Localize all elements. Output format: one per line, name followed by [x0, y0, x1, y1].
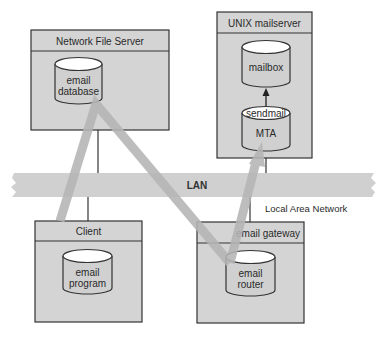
mail-architecture-diagram: Network File Server email database UNIX …	[0, 0, 388, 337]
unix-title: UNIX mailserver	[228, 18, 301, 29]
client-title: Client	[76, 226, 102, 237]
lan-label: LAN	[187, 180, 208, 191]
email-program-label-2: program	[69, 278, 106, 289]
mailbox-label: mailbox	[249, 62, 283, 73]
lan-caption: Local Area Network	[265, 203, 348, 214]
email-router-label-2: router	[237, 279, 264, 290]
gateway-title: email gateway	[236, 228, 300, 239]
sendmail-label: sendmail	[246, 108, 286, 119]
email-program-label-1: email	[76, 267, 100, 278]
email-database-label-2: database	[58, 86, 100, 97]
nfs-title: Network File Server	[56, 36, 144, 47]
client-box: Client email program	[35, 221, 142, 322]
mta-label: MTA	[256, 128, 277, 139]
email-database-label-1: email	[67, 75, 91, 86]
email-router-label-1: email	[239, 268, 263, 279]
unix-mailserver-box: UNIX mailserver mailbox sendmail MTA	[217, 12, 312, 158]
